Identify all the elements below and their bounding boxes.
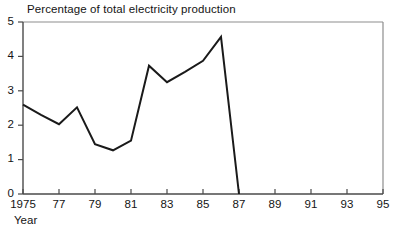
x-tick-label-1975: 1975: [9, 198, 37, 211]
y-tick-label-1: 1: [0, 152, 14, 165]
line-chart-plot-area: [0, 0, 395, 230]
x-tick-label-1989: 89: [265, 198, 285, 211]
x-tick-label-1981: 81: [121, 198, 141, 211]
x-tick-label-1987: 87: [229, 198, 249, 211]
x-tick-label-1991: 91: [301, 198, 321, 211]
y-axis-ticks: [18, 22, 23, 194]
x-tick-label-1993: 93: [337, 198, 357, 211]
y-tick-label-3: 3: [0, 84, 14, 97]
y-tick-label-4: 4: [0, 49, 14, 62]
y-tick-label-5: 5: [0, 15, 14, 28]
x-axis-label: Year: [14, 213, 37, 227]
x-tick-label-1985: 85: [193, 198, 213, 211]
x-tick-label-1977: 77: [49, 198, 69, 211]
x-axis-ticks: [23, 189, 383, 194]
chart-figure: Percentage of total electricity producti…: [0, 0, 395, 230]
x-tick-label-1983: 83: [157, 198, 177, 211]
x-tick-label-1995: 95: [373, 198, 393, 211]
y-tick-label-2: 2: [0, 118, 14, 131]
x-tick-label-1979: 79: [85, 198, 105, 211]
data-series-line: [23, 37, 239, 194]
